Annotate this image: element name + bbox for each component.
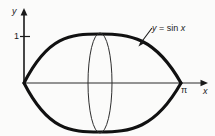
y-axis-tick-label-one: 1 (14, 32, 19, 41)
equation-argument: x (181, 23, 186, 33)
figure-canvas (0, 0, 215, 136)
sine-curve-upper (24, 34, 181, 83)
y-axis-arrowhead (21, 8, 28, 16)
sine-curve-lower-mirror (24, 83, 181, 132)
equation-function-name: sin (167, 23, 179, 33)
sine-solid-of-revolution-figure: y 1 x π y = sin x (0, 0, 215, 136)
y-axis-label: y (12, 7, 17, 16)
curve-equation-annotation: y = sin x (152, 24, 185, 33)
x-axis-label: x (203, 87, 208, 96)
x-axis-tick-label-pi: π (181, 86, 187, 95)
